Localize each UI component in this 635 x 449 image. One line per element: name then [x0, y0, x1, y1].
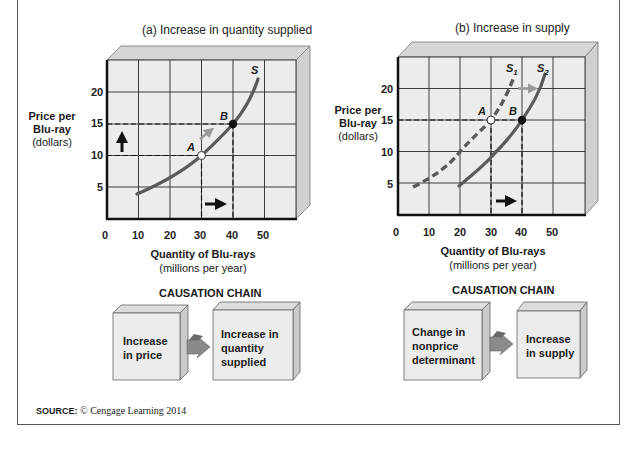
chain-b-box-1-line2: nonprice: [412, 339, 475, 353]
panel-a-x-tick-40: 40: [226, 229, 238, 241]
panel-b-x-tick-20: 20: [454, 226, 466, 238]
panel-b-x-label-main: Quantity of Blu-rays: [403, 244, 583, 258]
chain-a-box-1-line2: in price: [123, 348, 168, 362]
panel-b-y-tick-5: 5: [387, 178, 393, 190]
panel-a-chain-title: CAUSATION CHAIN: [159, 287, 261, 299]
panel-b-x-tick-50: 50: [546, 226, 558, 238]
chain-a-box-1-line1: Increase: [123, 334, 168, 348]
panel-b-y-label-unit: (dollars): [338, 130, 378, 142]
panel-b-chain-title: CAUSATION CHAIN: [452, 284, 554, 296]
chain-b-box-1-text: Change in nonprice determinant: [412, 325, 475, 367]
panel-a-y-label-line2: Blu-ray: [12, 123, 92, 136]
panel-a-y-axis-label: Price per Blu-ray (dollars): [12, 110, 92, 149]
panel-a-x-label-unit: (millions per year): [159, 262, 246, 274]
panel-b-x-tick-40: 40: [515, 226, 527, 238]
panel-a-y-tick-5: 5: [97, 181, 103, 193]
chain-b-arrow: [490, 331, 513, 355]
panel-a-x-tick-0: 0: [102, 229, 108, 241]
source-label: SOURCE:: [36, 406, 78, 416]
panel-b-chart: [397, 42, 598, 216]
panel-a-y-tick-20: 20: [91, 86, 103, 98]
panel-b-curve-label-s2-text: S2: [537, 62, 549, 74]
panel-b-curve-label-s1-text: S1: [506, 62, 518, 74]
chain-a-arrow: [187, 334, 210, 358]
panel-b-x-label-unit: (millions per year): [449, 259, 536, 271]
panel-a-x-label-main: Quantity of Blu-rays: [113, 247, 293, 261]
source-credit: SOURCE: © Cengage Learning 2014: [36, 405, 186, 416]
panel-b-y-tick-15: 15: [381, 114, 393, 126]
panel-a-x-tick-50: 50: [257, 229, 269, 241]
panel-b-point-label-b: B: [509, 105, 517, 117]
panel-b-y-tick-20: 20: [381, 83, 393, 95]
chain-a-box-2-line2: quantity: [221, 341, 278, 355]
panel-a-point-label-b: B: [220, 110, 228, 122]
source-text: © Cengage Learning 2014: [80, 405, 186, 416]
panel-b-point-label-a: A: [478, 105, 486, 117]
panel-a-x-tick-10: 10: [132, 229, 144, 241]
panel-b-x-tick-10: 10: [423, 226, 435, 238]
panel-a-x-tick-30: 30: [194, 229, 206, 241]
panel-a-y-label-unit: (dollars): [32, 136, 72, 148]
chain-a-box-2-text: Increase in quantity supplied: [221, 327, 278, 369]
panel-b-x-tick-30: 30: [485, 226, 497, 238]
panel-a-y-tick-15: 15: [91, 117, 103, 129]
chain-b-box-1-line1: Change in: [412, 325, 475, 339]
panel-a-y-label-line1: Price per: [12, 110, 92, 123]
panel-b-x-axis-label: Quantity of Blu-rays (millions per year): [403, 244, 583, 272]
panel-a-title: (a) Increase in quantity supplied: [142, 23, 312, 37]
panel-b-curve-label-s2: S2: [537, 62, 549, 77]
panel-a-y-tick-10: 10: [91, 149, 103, 161]
panel-a-chart: [106, 46, 310, 220]
chain-b-box-2-line1: Increase: [526, 332, 574, 346]
panel-a-x-tick-20: 20: [164, 229, 176, 241]
chain-a-box-2-line3: supplied: [221, 355, 278, 369]
chain-b-box-1-line3: determinant: [412, 353, 475, 367]
chain-a-box-1-text: Increase in price: [123, 334, 168, 362]
panel-a-point-label-a: A: [187, 141, 195, 153]
chain-b-box-2-text: Increase in supply: [526, 332, 574, 360]
panel-b-x-tick-0: 0: [393, 226, 399, 238]
panel-b-curve-label-s1: S1: [506, 62, 518, 77]
chain-b-box-2-line2: in supply: [526, 346, 574, 360]
panel-b-y-tick-10: 10: [381, 146, 393, 158]
panel-a-curve-label-s: S: [251, 64, 258, 76]
chain-a-box-2-line1: Increase in: [221, 327, 278, 341]
panel-b-title: (b) Increase in supply: [455, 21, 570, 35]
panel-a-x-axis-label: Quantity of Blu-rays (millions per year): [113, 247, 293, 275]
